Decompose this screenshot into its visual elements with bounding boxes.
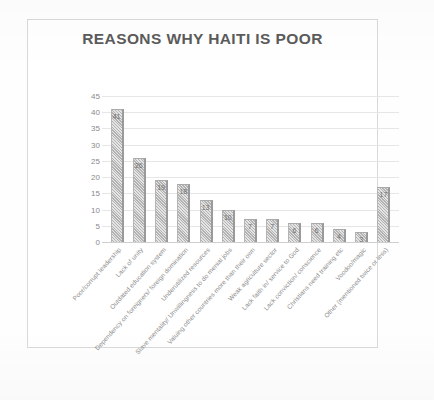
bar-slot: 7	[239, 96, 261, 242]
y-axis-tick-label: 20	[91, 173, 100, 182]
y-axis-tick-label: 15	[91, 189, 100, 198]
bar: 7	[244, 219, 257, 242]
y-axis-tick-label: 45	[91, 92, 100, 101]
bar-series: 41261918131077664317	[102, 96, 399, 242]
bar-value-label: 17	[378, 191, 388, 198]
bar-slot: 10	[217, 96, 239, 242]
bar: 17	[377, 187, 390, 242]
bar-slot: 19	[150, 96, 172, 242]
bar-value-label: 7	[267, 223, 277, 230]
chart-frame: REASONS WHY HAITI IS POOR 05101520253035…	[27, 19, 378, 348]
bar-slot: 17	[373, 96, 395, 242]
bar: 41	[111, 109, 124, 242]
bar: 18	[177, 184, 190, 242]
plot-area: 41261918131077664317	[102, 96, 399, 242]
y-axis-tick-label: 10	[91, 205, 100, 214]
bar-slot: 18	[173, 96, 195, 242]
bar-value-label: 4	[334, 233, 344, 240]
bar-slot: 13	[195, 96, 217, 242]
bar-value-label: 6	[289, 227, 299, 234]
bar-value-label: 19	[156, 184, 166, 191]
y-axis-tick-label: 25	[91, 156, 100, 165]
y-axis: 051015202530354045	[76, 96, 100, 242]
bar-value-label: 18	[178, 188, 188, 195]
bar-slot: 7	[262, 96, 284, 242]
bar-value-label: 10	[223, 214, 233, 221]
gridline	[102, 242, 399, 243]
y-axis-tick-label: 30	[91, 140, 100, 149]
bar-slot: 6	[284, 96, 306, 242]
y-axis-tick-label: 0	[96, 238, 100, 247]
bar-value-label: 7	[245, 223, 255, 230]
bar: 6	[288, 223, 301, 242]
y-axis-tick-label: 40	[91, 108, 100, 117]
bar-slot: 6	[306, 96, 328, 242]
bar-value-label: 41	[112, 113, 122, 120]
bar-value-label: 3	[356, 236, 366, 243]
bar: 4	[333, 229, 346, 242]
bar: 19	[155, 180, 168, 242]
bar: 10	[222, 210, 235, 242]
y-axis-tick-label: 35	[91, 124, 100, 133]
bar: 6	[311, 223, 324, 242]
bar: 26	[133, 158, 146, 242]
chart-title: REASONS WHY HAITI IS POOR	[28, 30, 377, 48]
bar-value-label: 26	[134, 162, 144, 169]
bar-slot: 3	[351, 96, 373, 242]
y-axis-tick-label: 5	[96, 221, 100, 230]
bar: 3	[355, 232, 368, 242]
bar-value-label: 6	[312, 227, 322, 234]
bar-value-label: 13	[201, 204, 211, 211]
bar-slot: 26	[128, 96, 150, 242]
scanned-page: REASONS WHY HAITI IS POOR 05101520253035…	[0, 0, 434, 400]
bar-slot: 4	[328, 96, 350, 242]
bar: 7	[266, 219, 279, 242]
bar-slot: 41	[106, 96, 128, 242]
bar: 13	[200, 200, 213, 242]
